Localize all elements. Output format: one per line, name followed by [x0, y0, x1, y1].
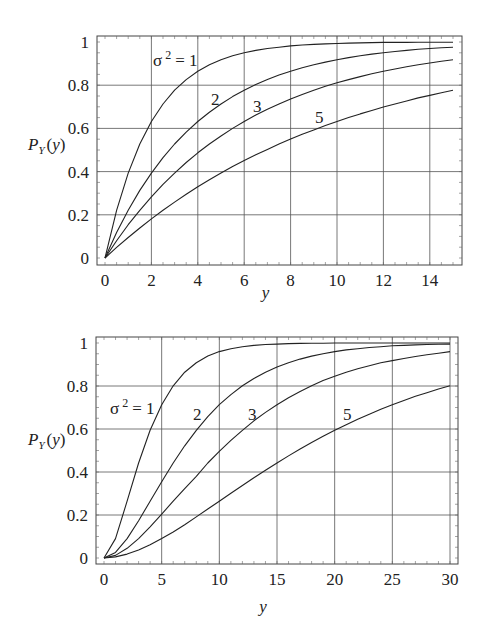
- curve-label: 5: [315, 108, 324, 127]
- x-tick-label: 2: [147, 271, 156, 290]
- x-tick-label: 4: [194, 271, 203, 290]
- y-tick-label: 0.6: [67, 420, 88, 439]
- y-tick-label: 0.4: [68, 163, 90, 182]
- y-tick-label: 0: [80, 549, 89, 568]
- y-tick-label: 1: [80, 334, 89, 353]
- x-tick-label: 15: [269, 570, 286, 589]
- x-axis-label: y: [260, 283, 270, 302]
- x-tick-label: 0: [101, 271, 110, 290]
- curve-label: 3: [248, 405, 257, 424]
- x-tick-label: 14: [421, 271, 439, 290]
- x-tick-label: 10: [329, 271, 346, 290]
- y-tick-label: 0.2: [67, 506, 88, 525]
- x-tick-label: 12: [375, 271, 392, 290]
- x-tick-label: 6: [240, 271, 249, 290]
- figure: 0246810121400.20.40.60.81yPY(y)σ2= 1235 …: [0, 0, 484, 633]
- chart-top: 0246810121400.20.40.60.81yPY(y)σ2= 1235: [27, 33, 462, 302]
- y-tick-label: 0.8: [68, 76, 89, 95]
- curve-label: 2: [193, 405, 202, 424]
- y-tick-label: 0: [81, 249, 90, 268]
- curve-label: 3: [253, 97, 262, 116]
- x-tick-label: 30: [442, 570, 459, 589]
- y-tick-label: 0.6: [68, 119, 89, 138]
- x-tick-label: 10: [211, 570, 228, 589]
- y-tick-label: 0.8: [67, 377, 88, 396]
- x-tick-label: 8: [286, 271, 295, 290]
- curve-label: 2: [211, 90, 220, 109]
- x-tick-label: 0: [100, 570, 109, 589]
- chart-bottom: 05101520253000.20.40.60.81yPY(y)σ2= 1235: [27, 334, 459, 616]
- curve-sigma-3: [105, 60, 453, 258]
- y-tick-label: 0.2: [68, 206, 89, 225]
- curve-sigma-5: [105, 90, 453, 258]
- y-axis-label: PY(y): [27, 430, 65, 451]
- curve-sigma-2: [105, 47, 453, 258]
- curve-label: 5: [343, 405, 352, 424]
- x-tick-label: 25: [384, 570, 401, 589]
- y-axis-label: PY(y): [27, 135, 65, 156]
- curve-label: σ2= 1: [153, 48, 198, 70]
- y-tick-label: 0.4: [67, 463, 89, 482]
- x-axis-label: y: [257, 597, 267, 616]
- y-tick-label: 1: [81, 33, 90, 52]
- x-tick-label: 5: [157, 570, 166, 589]
- x-tick-label: 20: [326, 570, 343, 589]
- curve-label: σ2= 1: [110, 396, 155, 418]
